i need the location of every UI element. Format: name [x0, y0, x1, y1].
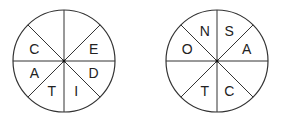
- sector-letter: C: [29, 41, 39, 57]
- sector-letter: E: [89, 41, 98, 57]
- sector-letter: A: [30, 65, 40, 81]
- sector-letter: S: [225, 23, 234, 39]
- sector-letter: D: [89, 65, 99, 81]
- sector-letter: N: [200, 23, 210, 39]
- center-dot: [216, 60, 219, 63]
- wheel-1: EDITAC: [13, 10, 115, 112]
- center-dot: [63, 60, 66, 63]
- sector-letter: T: [47, 83, 56, 99]
- letter-wheels-diagram: EDITACSACTON: [0, 0, 282, 122]
- sector-letter: A: [242, 41, 252, 57]
- sector-letter: I: [74, 83, 78, 99]
- wheel-2: SACTON: [166, 10, 268, 112]
- sector-letter: T: [200, 83, 209, 99]
- sector-letter: O: [182, 41, 193, 57]
- sector-letter: C: [224, 83, 234, 99]
